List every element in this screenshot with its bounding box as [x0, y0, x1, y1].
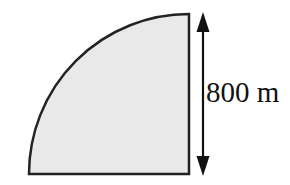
arrowhead-down-icon	[197, 156, 210, 176]
figure-canvas: c 800 m	[0, 0, 290, 185]
arrowhead-up-icon	[197, 12, 210, 32]
dimension-label: 800 m	[206, 77, 279, 107]
quarter-circle-shape	[29, 14, 189, 174]
